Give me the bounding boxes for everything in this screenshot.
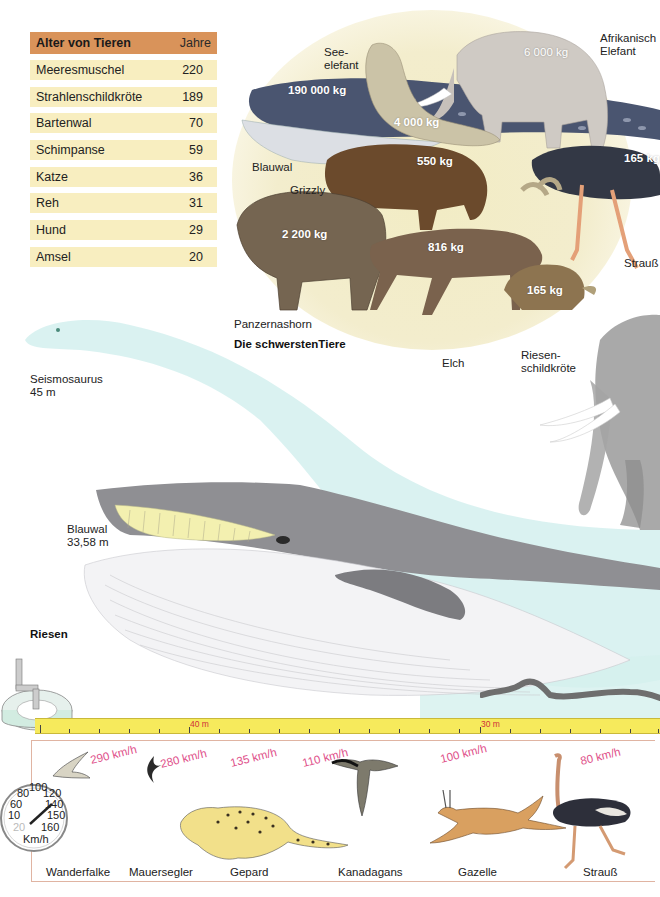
animal-name: Katze: [36, 170, 68, 184]
table-row: Bartenwal70: [30, 113, 217, 133]
heaviest-title: Die schwerstenTiere: [234, 338, 346, 350]
name-mauersegler: Mauersegler: [129, 866, 193, 878]
weight-elch: 816 kg: [428, 241, 464, 253]
name-gazelle: Gazelle: [458, 866, 497, 878]
table-row: Reh31: [30, 193, 217, 213]
name-strauss: Strauß: [583, 866, 618, 878]
blauwal-length: 33,58 m: [67, 536, 109, 549]
age-years: 220: [182, 63, 203, 77]
label-blauwal-giant: Blauwal 33,58 m: [67, 523, 109, 549]
animal-name: Hund: [36, 223, 66, 237]
ruler-mark-30m: 30 m: [481, 719, 500, 729]
table-row: Hund29: [30, 220, 217, 240]
gauge-label: 160: [41, 822, 59, 833]
label-riesenschildkroete: Riesen- schildkröte: [521, 349, 576, 375]
age-years: 70: [189, 116, 203, 130]
table-row: Amsel20: [30, 247, 217, 267]
age-table-unit: Jahre: [180, 36, 211, 50]
measurement-ruler: 40 m 30 m: [35, 718, 660, 734]
label-grizzly: Grizzly: [290, 184, 325, 197]
name-kanadagans: Kanadagans: [338, 866, 403, 878]
age-table-header: Alter von Tieren Jahre: [30, 32, 217, 54]
animal-name: Meeresmuschel: [36, 63, 124, 77]
label-see-elefant: See- elefant: [324, 46, 359, 72]
label-panzernashorn: Panzernashorn: [234, 318, 312, 331]
weight-grizzly: 550 kg: [417, 155, 453, 167]
age-years: 20: [189, 250, 203, 264]
gepard-icon: [178, 800, 353, 865]
gauge-label: 10: [8, 810, 20, 821]
name-wanderfalke: Wanderfalke: [46, 866, 110, 878]
label-afrikanisch-elefant: Afrikanisch Elefant: [600, 32, 656, 58]
strauss-icon: [545, 750, 635, 875]
animal-name: Schimpanse: [36, 143, 105, 157]
age-years: 36: [189, 170, 203, 184]
wanderfalke-icon: [48, 748, 93, 780]
weight-see-elefant: 4 000 kg: [394, 116, 439, 128]
table-row: Strahlenschildkröte189: [30, 87, 217, 107]
blauwal-name: Blauwal: [67, 523, 109, 536]
snake-icon: [480, 670, 660, 710]
speedometer-labels: 80 100 120 60 140 10 150 20 160 Km/h: [7, 782, 69, 848]
label-blauwal-heavy: Blauwal: [252, 161, 292, 174]
age-years: 189: [182, 90, 203, 104]
giants-title: Riesen: [30, 628, 68, 640]
weight-panzernashorn: 2 200 kg: [282, 228, 327, 240]
weight-riesenschildkroete: 165 kg: [527, 284, 563, 296]
label-strauss-heavy: Strauß: [624, 257, 659, 270]
gauge-label: Km/h: [23, 834, 49, 845]
weight-blauwal: 190 000 kg: [288, 84, 346, 96]
seismosaurus-name: Seismosaurus: [30, 373, 103, 386]
table-row: Schimpanse59: [30, 140, 217, 160]
age-years: 59: [189, 143, 203, 157]
ruler-mark-40m: 40 m: [190, 719, 209, 729]
gauge-label: 20: [13, 822, 25, 833]
age-years: 31: [189, 196, 203, 210]
table-row: Katze36: [30, 167, 217, 187]
age-years: 29: [189, 223, 203, 237]
animal-name: Amsel: [36, 250, 71, 264]
label-seismosaurus: Seismosaurus 45 m: [30, 373, 103, 399]
weight-elefant: 6 000 kg: [524, 46, 568, 58]
label-elch: Elch: [442, 357, 464, 370]
gauge-label: 150: [47, 810, 65, 821]
heaviest-animals-illustration: [232, 10, 660, 340]
seismosaurus-length: 45 m: [30, 386, 103, 399]
animal-name: Bartenwal: [36, 116, 92, 130]
age-table: Alter von Tieren Jahre Meeresmuschel220 …: [30, 32, 217, 274]
name-gepard: Gepard: [230, 866, 268, 878]
table-row: Meeresmuschel220: [30, 60, 217, 80]
age-table-title: Alter von Tieren: [36, 36, 131, 50]
weight-strauss: 165 kg: [624, 152, 660, 164]
animal-name: Reh: [36, 196, 59, 210]
animal-name: Strahlenschildkröte: [36, 90, 142, 104]
